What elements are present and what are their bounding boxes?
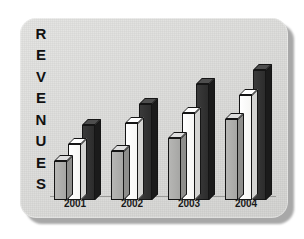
bar-2002-series-1[interactable] <box>111 151 124 200</box>
bar-2001-series-1[interactable] <box>54 161 67 200</box>
bar-top-face <box>225 113 238 119</box>
y-axis-label-letter: E <box>36 90 46 105</box>
bar-top-face <box>196 78 209 84</box>
x-axis-labels: 2001200220032004 <box>52 198 280 214</box>
y-axis-label-letter: E <box>36 47 46 62</box>
bar-group <box>225 60 282 200</box>
bar-top-face <box>125 117 138 123</box>
bar-top-face <box>239 89 252 95</box>
bar-2004-series-1[interactable] <box>225 119 238 200</box>
y-axis-label-letter: E <box>36 155 46 170</box>
plot-area <box>52 60 280 200</box>
bar-side-face <box>95 119 101 200</box>
bar-2003-series-1[interactable] <box>168 138 181 200</box>
bar-side-face <box>124 145 130 200</box>
y-axis-label: REVENUES <box>31 26 51 191</box>
chart-root: REVENUES 2001200220032004 <box>0 0 304 239</box>
bar-side-face <box>238 113 244 200</box>
y-axis-label-letter: U <box>36 133 47 148</box>
bar-top-face <box>253 64 266 70</box>
bar-side-face <box>181 132 187 200</box>
bar-top-face <box>168 132 181 138</box>
bar-top-face <box>182 107 195 113</box>
y-axis-label-letter: R <box>36 26 47 41</box>
bar-top-face <box>68 138 81 144</box>
bar-side-face <box>252 89 258 200</box>
bar-side-face <box>195 107 201 200</box>
bar-top-face <box>111 145 124 151</box>
bar-top-face <box>54 155 67 161</box>
bar-side-face <box>81 138 87 200</box>
bar-front-face <box>54 161 67 200</box>
bar-side-face <box>209 78 215 200</box>
y-axis-label-letter: V <box>36 69 46 84</box>
bar-side-face <box>138 117 144 200</box>
bar-group <box>54 60 111 200</box>
bar-side-face <box>67 155 73 200</box>
bar-front-face <box>168 138 181 200</box>
bar-front-face <box>111 151 124 200</box>
y-axis-label-letter: S <box>36 176 46 191</box>
y-axis-label-letter: N <box>36 112 47 127</box>
bar-group <box>168 60 225 200</box>
bar-top-face <box>82 119 95 125</box>
bar-side-face <box>266 64 272 200</box>
bar-front-face <box>225 119 238 200</box>
bar-group <box>111 60 168 200</box>
bar-top-face <box>139 98 152 104</box>
bar-side-face <box>152 98 158 200</box>
